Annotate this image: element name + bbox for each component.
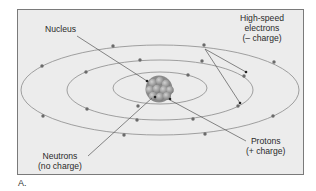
neutrons-label-line2: (no charge) (38, 161, 82, 171)
electron (271, 114, 274, 117)
neutrons-label: Neutrons (no charge) (38, 151, 82, 171)
electron (272, 60, 275, 63)
electrons-label-line2: electrons (240, 23, 284, 33)
electron (186, 73, 189, 76)
electron (40, 64, 43, 67)
electron (41, 114, 44, 117)
protons-label-line2: (+ charge) (246, 146, 285, 156)
neutrons-label-line1: Neutrons (38, 151, 82, 161)
electron (111, 44, 114, 47)
electron (203, 132, 206, 135)
electrons-label: High-speed electrons (– charge) (240, 13, 284, 43)
electron (202, 43, 205, 46)
electron (85, 107, 88, 110)
electron (84, 70, 87, 73)
electron (122, 133, 125, 136)
protons-label-line1: Protons (246, 136, 285, 146)
electrons-label-line1: High-speed (240, 13, 284, 23)
electron (200, 59, 203, 62)
electron (135, 118, 138, 121)
electron (136, 104, 139, 107)
nucleus-label: Nucleus (45, 24, 76, 34)
figure-caption: A. (18, 178, 27, 188)
electron (242, 74, 245, 77)
electron (191, 117, 194, 120)
electrons-label-line3: (– charge) (240, 33, 284, 43)
electron (138, 58, 141, 61)
electron (236, 104, 239, 107)
nucleus-label-text: Nucleus (45, 24, 76, 34)
protons-label: Protons (+ charge) (246, 136, 285, 156)
